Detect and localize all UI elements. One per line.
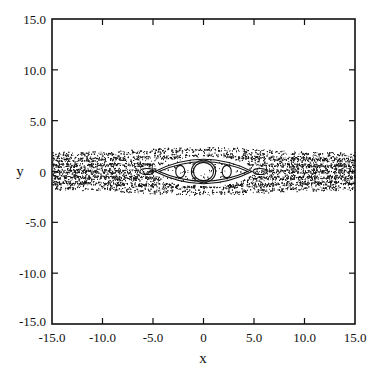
chaotic-band-points: [52, 148, 356, 196]
x-tick-label: 15.0: [344, 330, 367, 345]
plot-area: [52, 148, 356, 196]
x-tick-label: 0: [200, 330, 207, 345]
poincare-section-chart: -15.0-10.0-5.005.010.015.0 -15.0-10.0-5.…: [0, 0, 370, 372]
y-tick-label: 10.0: [23, 63, 46, 78]
y-axis-label: y: [16, 163, 24, 179]
y-tick-label: 5.0: [30, 114, 46, 129]
satellite-island-curve: [222, 165, 231, 177]
central-island-curve: [193, 162, 213, 180]
separatrix-eye-curve: [155, 159, 252, 183]
x-tick-label: 5.0: [246, 330, 262, 345]
x-tick-labels: -15.0-10.0-5.005.010.015.0: [38, 330, 366, 345]
y-tick-label: -5.0: [25, 215, 46, 230]
x-tick-label: -15.0: [38, 330, 65, 345]
y-tick-label: 0: [40, 165, 47, 180]
satellite-island-curve: [253, 168, 267, 174]
x-tick-label: -10.0: [89, 330, 116, 345]
y-tick-label: 15.0: [23, 12, 46, 27]
x-tick-label: 10.0: [293, 330, 316, 345]
y-tick-label: -10.0: [19, 266, 46, 281]
central-island-curve: [191, 160, 215, 182]
x-tick-label: -5.0: [143, 330, 164, 345]
x-axis-label: x: [199, 350, 207, 366]
y-tick-label: -15.0: [19, 314, 46, 329]
